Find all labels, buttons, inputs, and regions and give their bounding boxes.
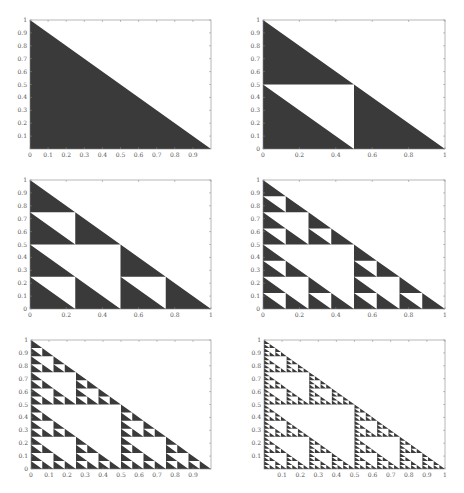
y-tick-label: 0 [23, 305, 27, 312]
y-tick-label: 0.9 [250, 189, 260, 196]
y-tick-label: 0.8 [17, 42, 27, 49]
fractal-fill [31, 340, 211, 469]
y-tick-label: 1 [23, 176, 27, 183]
y-tick-label: 0.9 [18, 349, 28, 356]
fractal-plot-level-3: 00.20.40.60.8100.10.20.30.40.50.60.70.80… [263, 180, 445, 309]
y-tick-label: 0.3 [251, 426, 261, 433]
y-tick-label: 1 [23, 16, 27, 23]
y-tick-label: 0 [256, 305, 260, 312]
y-tick-label: 0.8 [251, 362, 261, 369]
x-tick-label: 0 [261, 151, 265, 158]
x-tick-label: 0.4 [98, 151, 108, 158]
y-tick-label: 0.6 [251, 388, 261, 395]
y-tick-label: 0.8 [250, 202, 260, 209]
y-tick-label: 0.2 [17, 119, 27, 126]
x-tick-label: 0.8 [170, 471, 180, 478]
y-tick-label: 0.3 [17, 266, 27, 273]
y-tick-label: 0.1 [250, 132, 260, 139]
y-tick-label: 0.8 [18, 362, 28, 369]
x-tick-label: 0.2 [62, 471, 72, 478]
y-tick-label: 1 [256, 176, 260, 183]
y-tick-label: 0.3 [250, 266, 260, 273]
y-tick-label: 0.2 [17, 279, 27, 286]
fractal-plot-level-1: 00.20.40.60.8100.10.20.30.40.50.60.70.80… [263, 20, 445, 149]
x-tick-label: 0.2 [295, 311, 305, 318]
y-tick-label: 0.5 [18, 401, 28, 408]
x-tick-label: 0.8 [170, 151, 180, 158]
y-tick-label: 0.6 [17, 68, 27, 75]
x-tick-label: 0.1 [44, 471, 54, 478]
y-tick-label: 0.4 [17, 93, 27, 100]
y-tick-label: 0.3 [17, 106, 27, 113]
y-tick-label: 0.1 [251, 452, 261, 459]
fractal-fill [263, 20, 445, 149]
fractal-plot-level-5: 0.10.20.30.40.50.60.70.80.910.10.20.30.4… [264, 340, 445, 469]
x-tick-label: 0.6 [134, 471, 144, 478]
y-tick-label: 0.6 [17, 228, 27, 235]
x-tick-label: 0.5 [116, 151, 126, 158]
x-tick-label: 1 [443, 311, 447, 318]
x-tick-label: 0.7 [386, 471, 396, 478]
x-tick-label: 0.8 [404, 151, 414, 158]
x-tick-label: 0.5 [116, 471, 126, 478]
x-tick-label: 0.7 [152, 471, 162, 478]
y-tick-label: 0.7 [18, 375, 28, 382]
y-tick-label: 0.3 [250, 106, 260, 113]
x-tick-label: 0.4 [331, 311, 341, 318]
x-tick-label: 0.1 [277, 471, 287, 478]
x-tick-label: 0.2 [295, 471, 305, 478]
y-tick-label: 0.2 [251, 439, 261, 446]
y-tick-label: 0.4 [250, 253, 260, 260]
x-tick-label: 0.8 [404, 471, 414, 478]
y-tick-label: 0.6 [250, 68, 260, 75]
y-tick-label: 0.2 [250, 119, 260, 126]
x-tick-label: 0.6 [367, 311, 377, 318]
x-tick-label: 0 [28, 151, 32, 158]
y-tick-label: 0.4 [18, 413, 28, 420]
y-tick-label: 0.9 [251, 349, 261, 356]
x-tick-label: 0.9 [422, 471, 432, 478]
x-tick-label: 0 [29, 471, 33, 478]
x-tick-label: 0.4 [332, 471, 342, 478]
y-tick-label: 0.6 [18, 388, 28, 395]
y-tick-label: 0.4 [17, 253, 27, 260]
y-tick-label: 0.8 [250, 42, 260, 49]
x-tick-label: 0.1 [43, 151, 53, 158]
y-tick-label: 0.7 [251, 375, 261, 382]
y-tick-label: 0.1 [250, 292, 260, 299]
y-tick-label: 0.7 [250, 215, 260, 222]
x-tick-label: 0.4 [98, 311, 108, 318]
x-tick-label: 0.2 [61, 311, 71, 318]
fractal-fill [30, 20, 211, 149]
y-tick-label: 0.9 [250, 29, 260, 36]
x-tick-label: 0.6 [368, 471, 378, 478]
y-tick-label: 0.9 [17, 29, 27, 36]
y-tick-label: 0.5 [250, 81, 260, 88]
x-tick-label: 0.6 [134, 311, 144, 318]
x-tick-label: 1 [443, 471, 447, 478]
x-tick-label: 0.3 [314, 471, 324, 478]
x-tick-label: 0.5 [350, 471, 360, 478]
y-tick-label: 0 [24, 465, 28, 472]
fractal-fill [264, 340, 445, 469]
fractal-fill [263, 180, 445, 309]
x-tick-label: 0.8 [404, 311, 414, 318]
y-tick-label: 0.7 [250, 55, 260, 62]
x-tick-label: 0.7 [152, 151, 162, 158]
y-tick-label: 0.9 [17, 189, 27, 196]
y-tick-label: 0.5 [17, 81, 27, 88]
y-tick-label: 0.8 [17, 202, 27, 209]
x-tick-label: 0 [28, 311, 32, 318]
fractal-plot-level-0: 00.10.20.30.40.50.60.70.80.90.10.20.30.4… [30, 20, 211, 149]
x-tick-label: 0.3 [80, 151, 90, 158]
x-tick-label: 0.3 [80, 471, 90, 478]
y-tick-label: 0.6 [250, 228, 260, 235]
y-tick-label: 0.7 [17, 215, 27, 222]
x-tick-label: 0.4 [98, 471, 108, 478]
y-tick-label: 0.4 [251, 413, 261, 420]
x-tick-label: 0.6 [367, 151, 377, 158]
fractal-plot-level-2: 00.20.40.60.8100.10.20.30.40.50.60.70.80… [30, 180, 211, 309]
fractal-fill [30, 180, 211, 309]
y-tick-label: 0.5 [250, 241, 260, 248]
y-tick-label: 0.1 [18, 452, 28, 459]
